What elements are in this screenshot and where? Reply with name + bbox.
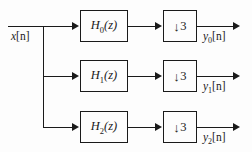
branch-2-output-wire [197, 127, 234, 128]
filter-block-h1: H1(z) [80, 60, 128, 92]
input-signal-label: x[n] [11, 31, 30, 45]
branch-2-arrow-into-filter [72, 123, 79, 131]
branch-1-wire-to-filter [43, 76, 73, 77]
filter-block-h0: H0(z) [80, 10, 128, 42]
branch-0-arrow-into-decimator [155, 22, 162, 30]
branch-1-arrow-into-decimator [155, 72, 162, 80]
branch-2-wire-to-filter [43, 127, 73, 128]
filter-block-h1-label: H1(z) [91, 69, 117, 84]
filter-block-h2-label: H2(z) [91, 120, 117, 135]
input-wire [8, 26, 44, 27]
branch-0-arrow-into-filter [72, 22, 79, 30]
branch-0-wire-to-decimator [128, 26, 156, 27]
branch-1-wire-to-decimator [128, 76, 156, 77]
output-signal-label-0: y0[n] [203, 31, 226, 45]
output-signal-label-2: y2[n] [203, 132, 226, 146]
branch-1-output-wire [197, 76, 234, 77]
decimator-block-2-label: ↓3 [173, 120, 187, 134]
decimator-block-0: ↓3 [163, 10, 197, 42]
decimator-block-1: ↓3 [163, 60, 197, 92]
decimator-block-0-label: ↓3 [173, 19, 187, 33]
filter-block-h0-label: H0(z) [91, 19, 117, 34]
branch-2-output-arrow [233, 123, 240, 131]
filter-block-h2: H2(z) [80, 111, 128, 143]
branch-0-wire-to-filter [43, 26, 73, 27]
branch-0-output-arrow [233, 22, 240, 30]
decimator-block-2: ↓3 [163, 111, 197, 143]
filter-bank-diagram: x[n] H0(z) ↓3 y0[n] H1(z) ↓3 y1[n [0, 0, 252, 152]
input-signal-brackets: [n] [16, 30, 29, 42]
branch-2-wire-to-decimator [128, 127, 156, 128]
decimator-block-1-label: ↓3 [173, 69, 187, 83]
output-signal-label-1: y1[n] [203, 81, 226, 95]
branch-1-arrow-into-filter [72, 72, 79, 80]
branch-2-arrow-into-decimator [155, 123, 162, 131]
branch-0-output-wire [197, 26, 234, 27]
branch-1-output-arrow [233, 72, 240, 80]
